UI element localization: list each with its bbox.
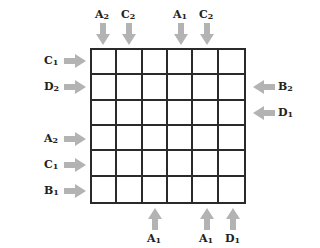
grid-cell-r5c6[interactable] (219, 151, 244, 176)
grid-cell-r4c6[interactable] (219, 126, 244, 151)
arrow-right-icon (64, 80, 86, 94)
arrow-left-icon (253, 106, 275, 120)
grid-cell-r2c5[interactable] (193, 75, 218, 100)
grid-cell-r5c2[interactable] (117, 151, 142, 176)
grid-cell-r4c4[interactable] (168, 126, 193, 151)
grid-cell-r4c3[interactable] (143, 126, 168, 151)
arrow-left-icon (253, 80, 275, 94)
grid-cell-r1c3[interactable] (143, 50, 168, 75)
clue-label: A1 (147, 233, 161, 244)
grid-cell-r5c4[interactable] (168, 151, 193, 176)
grid-cell-r3c3[interactable] (143, 101, 168, 126)
grid-cell-r5c5[interactable] (193, 151, 218, 176)
grid-cell-r3c1[interactable] (92, 101, 117, 126)
arrow-right-icon (64, 184, 86, 198)
grid-cell-r2c4[interactable] (168, 75, 193, 100)
grid-cell-r6c2[interactable] (117, 177, 142, 202)
grid-cell-r2c2[interactable] (117, 75, 142, 100)
grid-cell-r3c6[interactable] (219, 101, 244, 126)
clue-label: D1 (225, 233, 240, 244)
clue-label: C1 (44, 159, 58, 170)
arrow-right-icon (64, 132, 86, 146)
clue-label: B1 (44, 185, 59, 196)
grid-cell-r3c5[interactable] (193, 101, 218, 126)
grid-cell-r5c3[interactable] (143, 151, 168, 176)
arrow-up-icon (148, 208, 162, 230)
grid-cell-r1c1[interactable] (92, 50, 117, 75)
grid-cell-r4c5[interactable] (193, 126, 218, 151)
arrow-right-icon (64, 54, 86, 68)
clue-label: C1 (44, 55, 58, 66)
grid-cell-r1c2[interactable] (117, 50, 142, 75)
clue-label: C2 (199, 9, 213, 20)
grid-cell-r3c4[interactable] (168, 101, 193, 126)
arrow-down-icon (200, 23, 214, 45)
clue-label: A2 (95, 9, 109, 20)
clue-label: A1 (199, 233, 213, 244)
grid-cell-r4c2[interactable] (117, 126, 142, 151)
grid-cell-r5c1[interactable] (92, 151, 117, 176)
grid-cell-r2c1[interactable] (92, 75, 117, 100)
grid-cell-r1c5[interactable] (193, 50, 218, 75)
grid-cell-r1c6[interactable] (219, 50, 244, 75)
arrow-down-icon (122, 23, 136, 45)
grid-cell-r3c2[interactable] (117, 101, 142, 126)
grid-cell-r6c3[interactable] (143, 177, 168, 202)
clue-label: A2 (44, 133, 58, 144)
clue-label: D1 (278, 107, 293, 118)
grid-cell-r6c6[interactable] (219, 177, 244, 202)
arrow-down-icon (174, 23, 188, 45)
grid-cell-r4c1[interactable] (92, 126, 117, 151)
arrow-up-icon (226, 208, 240, 230)
puzzle-grid (90, 48, 246, 204)
arrow-right-icon (64, 158, 86, 172)
clue-label: C2 (121, 9, 135, 20)
clue-label: A1 (173, 9, 187, 20)
arrow-up-icon (200, 208, 214, 230)
grid-cell-r6c1[interactable] (92, 177, 117, 202)
grid-cell-r2c6[interactable] (219, 75, 244, 100)
grid-cell-r6c5[interactable] (193, 177, 218, 202)
grid-cell-r1c4[interactable] (168, 50, 193, 75)
grid-cell-r2c3[interactable] (143, 75, 168, 100)
clue-label: B2 (278, 81, 293, 92)
clue-label: D2 (44, 81, 59, 92)
grid-cell-r6c4[interactable] (168, 177, 193, 202)
arrow-down-icon (96, 23, 110, 45)
